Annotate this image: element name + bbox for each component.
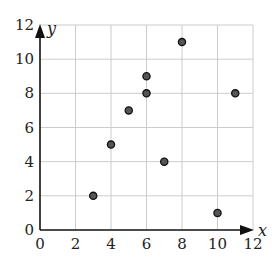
- y-tick-label: 10: [15, 50, 34, 68]
- y-axis-label: y: [46, 19, 57, 38]
- x-tick-label: 6: [142, 235, 152, 253]
- data-point: [90, 192, 97, 199]
- y-tick-label: 6: [24, 119, 34, 137]
- x-tick-label: 4: [106, 235, 116, 253]
- x-axis-arrow-icon: [240, 225, 254, 235]
- grid-lines: [40, 25, 253, 230]
- scatter-chart: 024681012024681012 x y: [0, 0, 272, 262]
- y-tick-label: 0: [24, 221, 34, 239]
- y-tick-label: 8: [24, 84, 34, 102]
- data-point: [143, 73, 150, 80]
- y-tick-label: 2: [24, 187, 34, 205]
- data-point: [232, 90, 239, 97]
- axes: [35, 24, 254, 235]
- x-axis-label: x: [258, 221, 267, 240]
- data-point: [143, 90, 150, 97]
- data-point: [125, 107, 132, 114]
- y-tick-label: 4: [24, 153, 34, 171]
- data-point: [161, 158, 168, 165]
- x-tick-label: 0: [35, 235, 45, 253]
- x-tick-label: 10: [208, 235, 227, 253]
- data-point: [107, 141, 114, 148]
- data-point: [214, 209, 221, 216]
- x-tick-label: 2: [71, 235, 81, 253]
- tick-labels: 024681012024681012: [15, 16, 263, 253]
- data-point: [178, 38, 185, 45]
- y-axis-arrow-icon: [35, 24, 45, 38]
- x-tick-label: 8: [177, 235, 187, 253]
- y-tick-label: 12: [15, 16, 34, 34]
